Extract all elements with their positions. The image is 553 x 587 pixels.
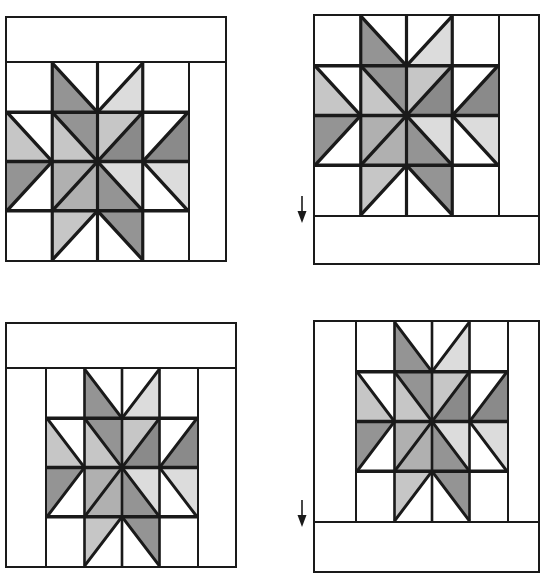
panel-1-star-block <box>5 61 190 262</box>
panel-4-star-block <box>355 320 509 523</box>
down-arrow-icon <box>293 196 311 224</box>
panel-3-step-3 <box>5 322 237 568</box>
panel-2-star-block <box>313 14 500 217</box>
panel-2-right-border-strip <box>498 14 540 217</box>
star-block-svg <box>357 322 507 521</box>
panel-1-right-border-strip <box>188 61 227 262</box>
panel-4-right-border-strip <box>507 320 540 523</box>
panel-2-bottom-border-strip <box>313 215 540 265</box>
down-arrow-icon <box>293 500 311 528</box>
panel-3-top-border-strip <box>5 322 237 369</box>
panel-4-step-4 <box>313 320 540 573</box>
panel-4-bottom-border-strip <box>313 521 540 573</box>
panel-3-left-border-strip <box>5 367 47 568</box>
panel-3-star-block <box>45 367 199 568</box>
panel-2-step-2 <box>313 14 540 265</box>
panel-4-left-border-strip <box>313 320 357 523</box>
figure-sheet <box>0 0 553 587</box>
star-block-svg <box>315 16 498 215</box>
panel-3-right-border-strip <box>197 367 237 568</box>
star-block-svg <box>47 369 197 566</box>
panel-2-arrow-indicator <box>293 196 311 224</box>
panel-4-arrow-indicator <box>293 500 311 528</box>
panel-1-step-1 <box>5 16 227 262</box>
panel-1-top-border-strip <box>5 16 227 63</box>
star-block-svg <box>7 63 188 260</box>
